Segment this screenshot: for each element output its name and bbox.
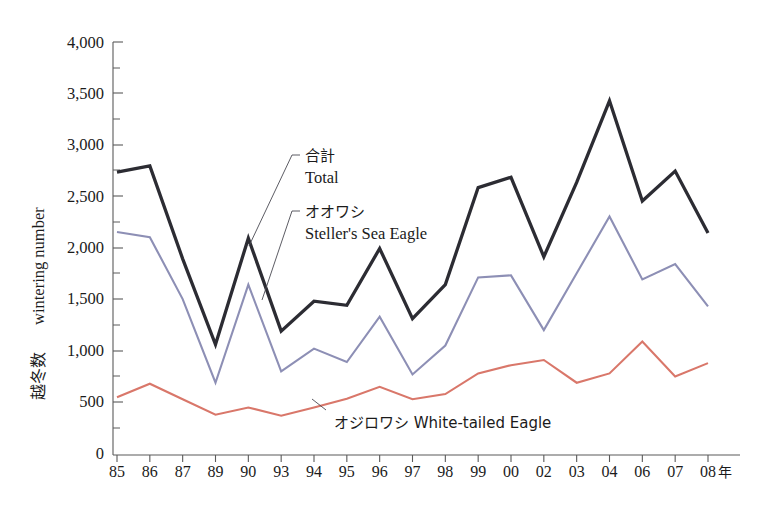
x-tick-label: 86: [142, 463, 158, 480]
x-tick-label: 94: [306, 463, 322, 480]
x-tick-label: 97: [405, 463, 421, 480]
y-axis-label-en: wintering number: [29, 207, 48, 325]
x-tick-label: 06: [634, 463, 650, 480]
x-tick-label: 85: [109, 463, 125, 480]
wintering-number-line-chart: wintering number 越冬数 4,000 3,500 3,000 2…: [0, 0, 762, 508]
annotation-steller-en: Steller's Sea Eagle: [305, 224, 427, 243]
x-tick-label: 98: [437, 463, 453, 480]
series-line-total: [117, 101, 708, 345]
y-axis-label-jp: 越冬数: [29, 352, 48, 400]
annotation-total-jp: 合計: [305, 147, 335, 165]
y-tick-label: 3,000: [67, 135, 104, 154]
y-tick-label: 1,000: [67, 341, 104, 360]
x-tick-label: 08: [700, 463, 716, 480]
x-tick-label: 95: [339, 463, 355, 480]
figure-container: wintering number 越冬数 4,000 3,500 3,000 2…: [0, 0, 762, 508]
x-axis-unit-label: 年: [718, 464, 732, 480]
annotation-white-tailed-label: オジロワシ White-tailed Eagle: [334, 414, 551, 432]
x-tick-label: 96: [372, 463, 388, 480]
annotation-stellers-sea-eagle: オオワシ Steller's Sea Eagle: [305, 203, 427, 243]
x-axis-ticks: [117, 455, 708, 462]
series-line-white-tailed-eagle: [117, 341, 708, 415]
y-axis-label: wintering number 越冬数: [29, 207, 48, 400]
annotation-steller-jp: オオワシ: [305, 203, 365, 221]
annotation-total: 合計 Total: [305, 147, 339, 187]
x-tick-label: 99: [470, 463, 486, 480]
y-tick-label: 500: [79, 392, 104, 411]
leader-line-total: [249, 155, 292, 246]
y-tick-label: 2,000: [67, 238, 104, 257]
x-tick-label: 93: [273, 463, 289, 480]
y-tick-labels: 4,000 3,500 3,000 2,500 2,000 1,500 1,00…: [67, 33, 104, 463]
x-tick-label: 89: [208, 463, 224, 480]
annotation-total-en: Total: [305, 168, 339, 187]
y-tick-label: 1,500: [67, 289, 104, 308]
leader-line-steller: [262, 211, 292, 300]
x-tick-label: 00: [503, 463, 519, 480]
y-tick-label: 4,000: [67, 33, 104, 52]
x-tick-labels: 85868789909394959697989900020304060708: [109, 463, 716, 480]
x-tick-label: 90: [240, 463, 256, 480]
cropped-caption: [0, 498, 762, 508]
x-tick-label: 07: [667, 463, 683, 480]
x-tick-label: 87: [175, 463, 191, 480]
annotation-white-tailed-eagle: オジロワシ White-tailed Eagle: [334, 414, 551, 432]
y-axis-ticks: [113, 42, 123, 428]
x-tick-label: 04: [602, 463, 618, 480]
y-tick-label: 3,500: [67, 84, 104, 103]
y-tick-label: 2,500: [67, 187, 104, 206]
y-tick-label: 0: [96, 444, 104, 463]
x-tick-label: 03: [569, 463, 585, 480]
x-tick-label: 02: [536, 463, 552, 480]
